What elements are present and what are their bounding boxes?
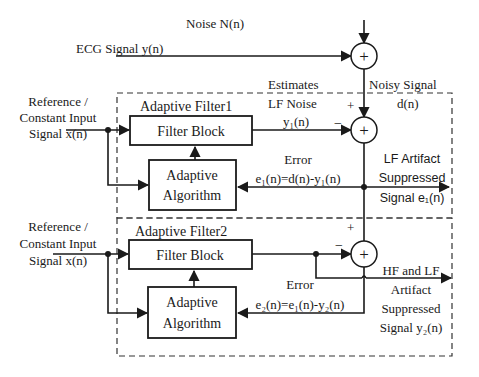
hf-lf-output-line4: Signal y₂(n) xyxy=(380,320,443,335)
filter-block-2-label: Filter Block xyxy=(156,248,223,263)
lf-artifact-label-line3: Signal e₁(n) xyxy=(380,191,445,205)
reference-input-1-line1: Reference / xyxy=(28,94,88,109)
adaptive-algorithm-2-line2: Algorithm xyxy=(163,316,221,331)
summing-plus-icon: + xyxy=(359,121,369,140)
error2-equation: e₂(n)=e₁(n)-y₂(n) xyxy=(256,297,345,312)
reference-input-1-line3: Signal x(n) xyxy=(29,126,87,141)
hf-lf-output-line1: HF and LF xyxy=(382,263,439,278)
lf-artifact-label-line2: Suppressed xyxy=(379,171,446,185)
reference-input-2-line2: Constant Input xyxy=(20,236,97,251)
adaptive-filter1-title: Adaptive Filter1 xyxy=(140,99,232,114)
reference-input-2-line3: Signal x(n) xyxy=(29,253,87,268)
lf-noise-label: LF Noise xyxy=(268,96,317,111)
estimates-label: Estimates xyxy=(268,77,319,92)
summing-plus-icon: + xyxy=(359,245,369,264)
adaptive-algorithm-1-line1: Adaptive xyxy=(166,168,217,183)
error1-label: Error xyxy=(284,152,312,167)
error1-equation: e₁(n)=d(n)-y₁(n) xyxy=(256,171,341,186)
y1-label: y₁(n) xyxy=(283,114,309,129)
minus-sign-1: − xyxy=(334,116,342,131)
minus-sign-2: − xyxy=(335,238,343,253)
plus-sign-1: + xyxy=(347,98,354,113)
lf-artifact-label-line1: LF Artifact xyxy=(384,152,441,166)
ecg-signal-label: ECG Signal y(n) xyxy=(76,41,163,56)
hf-lf-output-line3: Suppressed xyxy=(381,301,441,316)
adaptive-filter2-title: Adaptive Filter2 xyxy=(135,224,227,239)
noisy-signal-label: Noisy Signal xyxy=(369,77,437,92)
noise-label: Noise N(n) xyxy=(186,16,244,31)
hf-lf-output-line2: Artifact xyxy=(391,282,432,297)
filter-block-1-label: Filter Block xyxy=(157,124,224,139)
reference-input-2-line1: Reference / xyxy=(28,219,88,234)
summing-plus-icon: + xyxy=(359,47,369,66)
adaptive-algorithm-1-line2: Algorithm xyxy=(163,188,221,203)
adaptive-algorithm-2-line1: Adaptive xyxy=(166,295,217,310)
error2-label: Error xyxy=(286,277,314,292)
adaptive-filter-block-diagram: Noise N(n) ECG Signal y(n) + Noisy Signa… xyxy=(0,0,479,377)
noisy-signal-dn-label: d(n) xyxy=(397,96,419,111)
reference-input-1-line2: Constant Input xyxy=(20,110,97,125)
plus-sign-2: + xyxy=(347,220,354,235)
